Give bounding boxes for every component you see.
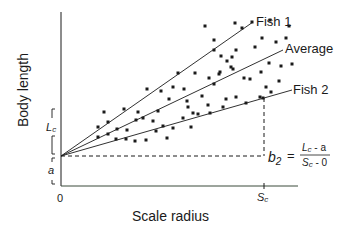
data-point	[182, 117, 185, 120]
data-point	[209, 112, 212, 115]
data-point	[146, 88, 149, 91]
data-point	[166, 137, 169, 140]
data-point	[234, 22, 237, 25]
data-point	[145, 139, 148, 142]
data-point	[207, 104, 210, 107]
slope-formula: b2 = Lc - a Sc - 0	[268, 142, 330, 169]
data-point	[275, 41, 278, 44]
data-point	[152, 120, 155, 123]
data-point	[270, 91, 273, 94]
data-point	[265, 86, 268, 89]
scale-body-regression-diagram: Fish 1 Average Fish 2 Body length Scale …	[0, 0, 350, 233]
average-label: Average	[285, 41, 333, 56]
data-point	[259, 96, 262, 99]
data-point	[260, 71, 263, 74]
data-point	[194, 72, 197, 75]
data-point	[208, 77, 211, 80]
data-point	[231, 56, 234, 59]
data-point	[190, 126, 193, 129]
data-point	[157, 110, 160, 113]
data-point	[97, 136, 100, 139]
data-point	[116, 128, 119, 131]
lc-bracket	[52, 136, 55, 154]
fish2-label: Fish 2	[293, 82, 328, 97]
data-point	[226, 60, 229, 63]
data-point	[125, 138, 128, 141]
data-point	[186, 100, 189, 103]
fish1-line	[61, 22, 253, 156]
data-point	[285, 37, 288, 40]
data-point	[155, 130, 158, 133]
data-point	[160, 90, 163, 93]
data-point	[192, 112, 195, 115]
data-point	[251, 21, 254, 24]
origin-label: 0	[57, 192, 63, 204]
data-point	[254, 46, 257, 49]
data-point	[220, 55, 223, 58]
lc-label: Lc	[46, 121, 56, 134]
data-point	[243, 77, 246, 80]
data-point	[137, 111, 140, 114]
x-axis-label: Scale radius	[132, 208, 209, 224]
data-point	[291, 63, 294, 66]
data-point	[107, 133, 110, 136]
data-point	[278, 80, 281, 83]
data-point	[172, 86, 175, 89]
data-point	[213, 83, 216, 86]
average-line	[61, 50, 283, 156]
fish1-label: Fish 1	[256, 14, 291, 29]
data-point	[168, 98, 171, 101]
formula-equals: =	[287, 148, 295, 163]
data-point	[213, 49, 216, 52]
data-point	[235, 49, 238, 52]
data-point	[261, 37, 264, 40]
formula-numerator: Lc - a	[302, 142, 326, 154]
y-axis-label: Body length	[15, 53, 31, 127]
data-point	[142, 117, 145, 120]
data-point	[107, 121, 110, 124]
data-point	[245, 102, 248, 105]
sc-label: Sc	[257, 191, 268, 204]
lc-bracket-top	[52, 109, 55, 118]
data-point	[187, 106, 190, 109]
data-point	[115, 138, 118, 141]
scatter-points	[97, 19, 294, 143]
data-point	[241, 27, 244, 30]
data-point	[103, 111, 106, 114]
data-point	[197, 113, 200, 116]
data-point	[183, 88, 186, 91]
data-point	[262, 97, 265, 100]
data-point	[222, 106, 225, 109]
data-point	[201, 95, 204, 98]
fish2-line	[61, 90, 292, 156]
data-point	[230, 66, 233, 69]
data-point	[135, 119, 138, 122]
data-point	[123, 108, 126, 111]
data-point	[280, 65, 283, 68]
data-point	[162, 125, 165, 128]
data-point	[97, 126, 100, 129]
data-point	[225, 98, 228, 101]
data-point	[235, 96, 238, 99]
data-point	[134, 140, 137, 143]
data-point	[218, 73, 221, 76]
data-point	[204, 25, 207, 28]
formula-lhs: b2	[268, 149, 282, 167]
data-point	[177, 72, 180, 75]
formula-denominator: Sc - 0	[302, 157, 328, 169]
data-point	[126, 129, 129, 132]
a-label: a	[48, 164, 54, 176]
data-point	[249, 78, 252, 81]
data-point	[268, 62, 271, 65]
data-point	[172, 127, 175, 130]
data-point	[213, 39, 216, 42]
